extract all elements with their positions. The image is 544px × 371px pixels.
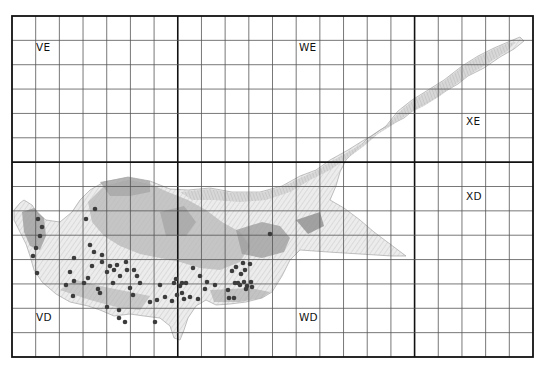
record-dot bbox=[175, 293, 180, 298]
record-dot bbox=[36, 217, 41, 222]
record-dot bbox=[115, 263, 120, 268]
record-dot bbox=[213, 283, 218, 288]
record-dot bbox=[230, 269, 235, 274]
record-dot bbox=[138, 281, 143, 286]
record-dot bbox=[82, 281, 87, 286]
record-dot bbox=[233, 281, 238, 286]
record-dot bbox=[239, 272, 244, 277]
record-dot bbox=[248, 262, 253, 267]
record-dot bbox=[191, 266, 196, 271]
record-dot bbox=[227, 296, 232, 301]
grid-square-label: XE bbox=[466, 115, 480, 127]
record-dot bbox=[68, 270, 73, 275]
record-dot bbox=[112, 268, 117, 273]
record-dot bbox=[158, 283, 163, 288]
record-dot bbox=[243, 268, 248, 273]
record-dot bbox=[123, 320, 128, 325]
grid-square-label: VE bbox=[36, 41, 50, 53]
record-dot bbox=[155, 298, 160, 303]
record-dot bbox=[198, 274, 203, 279]
record-dot bbox=[135, 274, 140, 279]
record-dot bbox=[125, 268, 130, 273]
record-dot bbox=[86, 276, 91, 281]
record-dot bbox=[35, 271, 40, 276]
record-dot bbox=[128, 286, 133, 291]
record-dot bbox=[182, 297, 187, 302]
island-landmass bbox=[14, 37, 524, 340]
record-dot bbox=[64, 283, 69, 288]
record-dot bbox=[40, 225, 45, 230]
record-dot bbox=[250, 285, 255, 290]
record-dot bbox=[163, 295, 168, 300]
record-dot bbox=[84, 217, 89, 222]
record-dot bbox=[96, 287, 101, 292]
record-dot bbox=[132, 268, 137, 273]
record-dot bbox=[184, 281, 189, 286]
record-dot bbox=[71, 294, 76, 299]
record-dot bbox=[98, 291, 103, 296]
record-dot bbox=[242, 280, 247, 285]
record-dot bbox=[244, 287, 249, 292]
grid-square-label: VD bbox=[36, 311, 52, 323]
record-dot bbox=[34, 246, 39, 251]
record-dot bbox=[105, 305, 110, 310]
record-dot bbox=[180, 281, 185, 286]
record-dot bbox=[226, 288, 231, 293]
record-dot bbox=[117, 308, 122, 313]
record-dot bbox=[203, 287, 208, 292]
grid-square-label: XD bbox=[466, 190, 482, 202]
record-dot bbox=[100, 253, 105, 258]
record-dot bbox=[268, 232, 273, 237]
record-dot bbox=[100, 260, 105, 265]
record-dot bbox=[249, 280, 254, 285]
record-dot bbox=[153, 320, 158, 325]
record-dot bbox=[88, 243, 93, 248]
grid-square-label: WE bbox=[299, 41, 316, 53]
record-dot bbox=[234, 265, 239, 270]
record-dot bbox=[38, 234, 43, 239]
record-dot bbox=[174, 277, 179, 282]
record-dot bbox=[118, 274, 123, 279]
record-dot bbox=[124, 260, 129, 265]
record-dot bbox=[196, 297, 201, 302]
record-dot bbox=[148, 300, 153, 305]
record-dot bbox=[172, 281, 177, 286]
record-dot bbox=[131, 293, 136, 298]
record-dot bbox=[180, 291, 185, 296]
record-dot bbox=[108, 264, 113, 269]
record-dot bbox=[232, 296, 237, 301]
record-dot bbox=[188, 295, 193, 300]
record-dot bbox=[105, 270, 110, 275]
record-dot bbox=[117, 316, 122, 321]
grid-square-label: WD bbox=[299, 311, 318, 323]
record-dot bbox=[111, 281, 116, 286]
record-dot bbox=[31, 254, 36, 259]
record-dot bbox=[170, 299, 175, 304]
record-dot bbox=[72, 279, 77, 284]
distribution-map bbox=[0, 0, 544, 371]
record-dot bbox=[241, 261, 246, 266]
record-dot bbox=[205, 280, 210, 285]
record-dot bbox=[93, 207, 98, 212]
record-dot bbox=[90, 264, 95, 269]
record-dot bbox=[72, 256, 77, 261]
record-dot bbox=[92, 250, 97, 255]
